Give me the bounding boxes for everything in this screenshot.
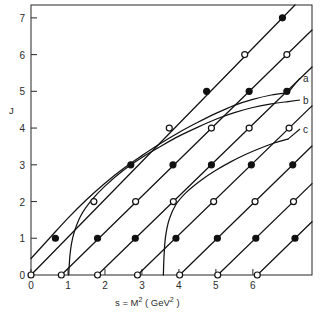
open-circle-marker bbox=[166, 125, 172, 131]
open-circle-marker bbox=[208, 125, 214, 131]
x-axis-label-lead: s = M bbox=[115, 297, 139, 308]
open-circle-marker bbox=[286, 125, 292, 131]
open-circle-marker bbox=[254, 272, 260, 278]
curve-label-a: a bbox=[303, 73, 309, 84]
open-circle-marker bbox=[134, 272, 140, 278]
open-circle-marker bbox=[246, 125, 252, 131]
filled-circle-marker bbox=[132, 235, 138, 241]
y-tick-label: 5 bbox=[19, 86, 25, 97]
open-circle-marker bbox=[58, 272, 64, 278]
data-point-markers bbox=[28, 15, 298, 278]
y-tick-label: 1 bbox=[19, 233, 25, 244]
curve-label-c: c bbox=[303, 124, 308, 135]
x-tick-label: 1 bbox=[65, 280, 71, 291]
filled-circle-marker bbox=[253, 235, 259, 241]
x-axis-label: s = M2 ( GeV2 ) bbox=[115, 296, 180, 308]
filled-circle-marker bbox=[95, 235, 101, 241]
x-tick-label: 2 bbox=[102, 280, 108, 291]
trajectory-line bbox=[31, 5, 295, 275]
trajectory-line bbox=[218, 184, 312, 275]
curve-a bbox=[31, 93, 288, 259]
filled-circle-marker bbox=[246, 88, 252, 94]
open-circle-marker bbox=[211, 199, 217, 205]
saturating-curves bbox=[31, 93, 288, 275]
x-tick-label: 6 bbox=[250, 280, 256, 291]
y-tick-label: 4 bbox=[19, 123, 25, 134]
open-circle-marker bbox=[95, 272, 101, 278]
filled-circle-marker bbox=[208, 162, 214, 168]
filled-circle-marker bbox=[214, 235, 220, 241]
open-circle-marker bbox=[28, 272, 34, 278]
y-tick-label: 0 bbox=[19, 270, 25, 281]
open-circle-marker bbox=[242, 52, 248, 58]
x-axis-label-tail: ) bbox=[174, 297, 180, 308]
open-circle-marker bbox=[291, 199, 297, 205]
filled-circle-marker bbox=[204, 88, 210, 94]
y-tick-label: 3 bbox=[19, 160, 25, 171]
label-leader-a bbox=[288, 78, 300, 93]
filled-circle-marker bbox=[173, 235, 179, 241]
y-axis-ticks: 01234567 bbox=[19, 13, 37, 281]
y-tick-label: 7 bbox=[19, 13, 25, 24]
label-leader-b bbox=[288, 100, 300, 102]
y-axis-label: J bbox=[9, 105, 14, 116]
x-tick-label: 3 bbox=[139, 280, 145, 291]
y-tick-label: 6 bbox=[19, 50, 25, 61]
open-circle-marker bbox=[252, 199, 258, 205]
filled-circle-marker bbox=[170, 162, 176, 168]
open-circle-marker bbox=[177, 272, 183, 278]
filled-circle-marker bbox=[128, 162, 134, 168]
filled-circle-marker bbox=[279, 15, 285, 21]
open-circle-marker bbox=[284, 52, 290, 58]
figure-root: 0123456 01234567 abc J s = M2 ( GeV2 ) bbox=[0, 0, 324, 316]
y-tick-label: 2 bbox=[19, 197, 25, 208]
trajectory-line bbox=[137, 106, 312, 275]
curve-b bbox=[69, 102, 288, 275]
x-tick-label: 0 bbox=[28, 280, 34, 291]
open-circle-marker bbox=[133, 199, 139, 205]
filled-circle-marker bbox=[248, 162, 254, 168]
filled-circle-marker bbox=[52, 235, 58, 241]
open-circle-marker bbox=[215, 272, 221, 278]
open-circle-marker bbox=[170, 199, 176, 205]
x-tick-label: 4 bbox=[176, 280, 182, 291]
regge-trajectory-plot: 0123456 01234567 abc J s = M2 ( GeV2 ) bbox=[0, 0, 324, 316]
curve-label-b: b bbox=[303, 95, 309, 106]
curve-c bbox=[163, 139, 288, 275]
trajectory-line bbox=[257, 222, 312, 275]
filled-circle-marker bbox=[290, 162, 296, 168]
x-tick-label: 5 bbox=[213, 280, 219, 291]
x-axis-label-mid: ( GeV bbox=[142, 297, 170, 308]
filled-circle-marker bbox=[292, 235, 298, 241]
open-circle-marker bbox=[91, 199, 97, 205]
